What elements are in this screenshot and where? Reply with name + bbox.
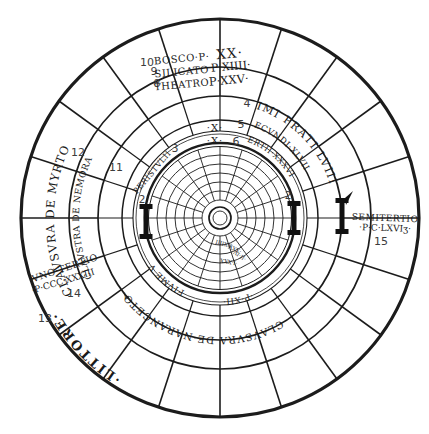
gate-markers — [140, 191, 354, 239]
sector-number-15: 15 — [374, 235, 388, 248]
sector-number-14: 14 — [67, 287, 81, 300]
svg-text:·LITTORE·: ·LITTORE· — [47, 309, 123, 387]
sector-number-5: 5 — [238, 118, 245, 131]
littore-arc-label: ·LITTORE· — [47, 309, 123, 387]
sector-number-6: 6 — [233, 135, 240, 148]
island-plan-figure: 10 BOSCO·P· XX· 9 SILICATO P·XIIII· 8 TH… — [0, 0, 429, 434]
gate-marker-east — [336, 191, 354, 234]
center-numeral-4: ·I·XXX — [219, 257, 237, 266]
sector-number-4: 4 — [244, 97, 251, 110]
top-legend: 10 BOSCO·P· XX· 9 SILICATO P·XIIII· 8 TH… — [140, 44, 251, 93]
sector-number-11: 11 — [109, 161, 123, 174]
x-mark-outer: ·X· — [207, 122, 223, 133]
gate-number-right: 2 — [285, 189, 292, 201]
gate-number-left: 2 — [139, 193, 146, 205]
svg-text:PRIMI PRATI LVIII·P·: PRIMI PRATI LVIII·P· — [0, 0, 340, 187]
primi-prati-arc-label: PRIMI PRATI LVIII·P· — [0, 0, 340, 187]
sector-number-12: 12 — [71, 146, 85, 159]
x-mark-inner: ·X· — [207, 135, 223, 146]
meadow-arc-labels: 4 PRIMI PRATI LVIII·P· 5 SECVNDI·XLVIII … — [0, 0, 340, 187]
theatro-measure: P·XXV· — [208, 71, 249, 88]
semitertio-line2: ·P·C·LXVIʒ· — [359, 222, 411, 234]
sector-number-3: 3 — [172, 142, 179, 155]
